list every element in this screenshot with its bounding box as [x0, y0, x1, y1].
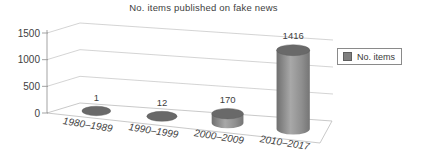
cylinder-top-2000-2009	[212, 108, 244, 118]
cylinder-top-2010-2017	[277, 45, 310, 56]
chart-figure: No. items published on fake news 0500100…	[0, 0, 421, 159]
cylinder-body-2010-2017	[277, 50, 310, 134]
legend: No. items	[337, 48, 402, 65]
legend-marker-icon	[343, 52, 352, 61]
bar-value-label: 1	[94, 92, 99, 103]
y-tick-label: 1000	[18, 54, 41, 65]
legend-label: No. items	[357, 52, 395, 62]
cylinder-1990-1999	[147, 111, 177, 121]
bar-value-label: 1416	[283, 30, 304, 41]
bar-value-label: 170	[220, 94, 236, 105]
y-tick-label: 0	[34, 108, 40, 119]
cylinder-1980-1989	[82, 106, 111, 115]
bar-value-label: 12	[157, 97, 168, 108]
y-tick-label: 500	[23, 81, 40, 92]
chart-canvas: 05001000150011980–1989121990–19991702000…	[0, 0, 421, 159]
y-tick-label: 1500	[18, 28, 41, 39]
